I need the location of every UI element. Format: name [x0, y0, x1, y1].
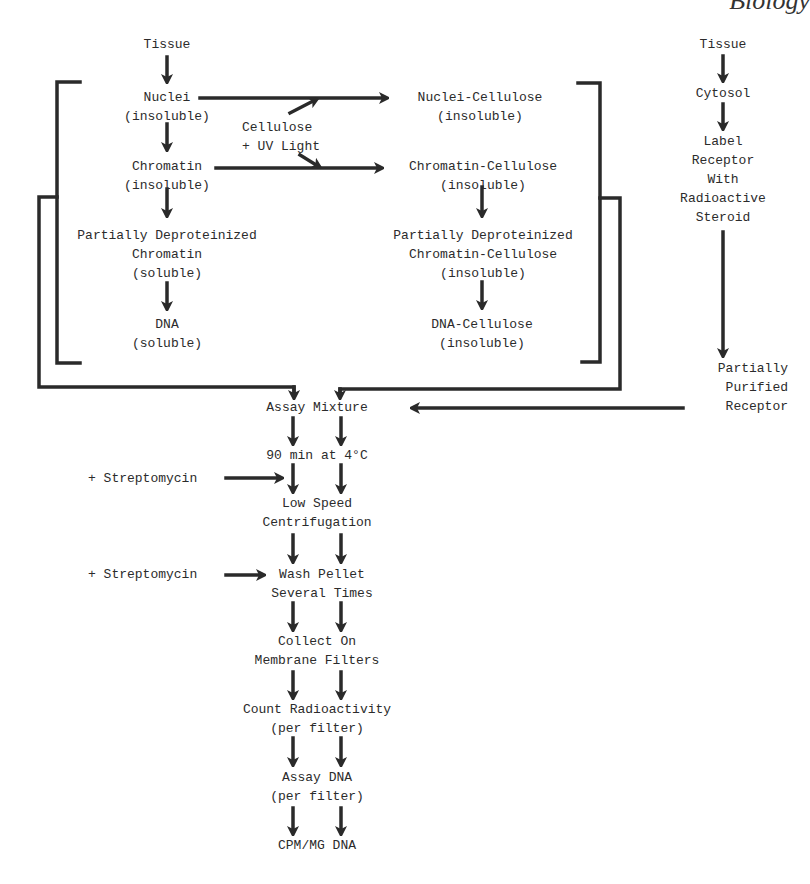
- node-chromatin: Chromatin (insoluble): [92, 157, 242, 195]
- node-incubation: 90 min at 4°C: [237, 446, 397, 465]
- node-partially-deproteinized-chromatin-cellulose: Partially Deproteinized Chromatin-Cellul…: [372, 226, 594, 283]
- node-chromatin-cellulose: Chromatin-Cellulose (insoluble): [383, 157, 583, 195]
- node-dna-soluble: DNA (soluble): [117, 315, 217, 353]
- node-nuclei: Nuclei (insoluble): [97, 88, 237, 126]
- node-centrifugation: Low Speed Centrifugation: [237, 494, 397, 532]
- node-collect-filters: Collect On Membrane Filters: [227, 632, 407, 670]
- node-tissue-right: Tissue: [673, 35, 773, 54]
- node-assay-dna: Assay DNA (per filter): [237, 768, 397, 806]
- node-tissue-left: Tissue: [117, 35, 217, 54]
- node-nuclei-cellulose: Nuclei-Cellulose (insoluble): [390, 88, 570, 126]
- node-partially-purified-receptor: Partially Purified Receptor: [678, 359, 788, 416]
- node-cellulose-uv-light: Cellulose + UV Light: [242, 118, 372, 156]
- node-cytosol: Cytosol: [673, 84, 773, 103]
- node-partially-deproteinized-chromatin: Partially Deproteinized Chromatin (solub…: [57, 226, 277, 283]
- node-wash-pellet: Wash Pellet Several Times: [252, 565, 392, 603]
- node-assay-mixture: Assay Mixture: [237, 398, 397, 417]
- node-cpm-mg-dna: CPM/MG DNA: [237, 836, 397, 855]
- node-streptomycin-2: + Streptomycin: [88, 565, 228, 584]
- node-count-radioactivity: Count Radioactivity (per filter): [222, 700, 412, 738]
- node-label-receptor: Label Receptor With Radioactive Steroid: [663, 132, 783, 227]
- node-dna-cellulose: DNA-Cellulose (insoluble): [402, 315, 562, 353]
- node-streptomycin-1: + Streptomycin: [88, 469, 228, 488]
